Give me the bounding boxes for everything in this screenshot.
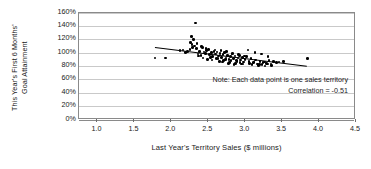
x-tick bbox=[96, 119, 97, 123]
x-tick-label: 4.0 bbox=[313, 124, 323, 133]
x-tick bbox=[170, 119, 171, 123]
data-point bbox=[227, 62, 230, 65]
y-tick-label: 100% bbox=[58, 48, 76, 56]
data-point bbox=[262, 61, 265, 64]
x-tick bbox=[355, 119, 356, 123]
x-tick-label: 1.5 bbox=[128, 124, 138, 133]
data-point bbox=[221, 61, 224, 64]
y-tick-label: 0% bbox=[66, 115, 76, 123]
x-axis-tick-labels: 1.01.52.02.53.03.54.04.5 bbox=[78, 124, 355, 136]
data-point bbox=[200, 45, 203, 48]
data-point bbox=[245, 55, 248, 58]
data-point bbox=[196, 42, 199, 45]
data-point bbox=[211, 55, 214, 58]
x-tick-label: 2.0 bbox=[165, 124, 175, 133]
data-point bbox=[225, 50, 228, 53]
data-point bbox=[282, 60, 285, 63]
gridline bbox=[79, 26, 354, 27]
data-point bbox=[237, 53, 240, 56]
data-point bbox=[247, 49, 250, 52]
data-point bbox=[220, 56, 223, 59]
data-point bbox=[191, 46, 194, 49]
data-point bbox=[211, 59, 214, 62]
y-tick-label: 40% bbox=[62, 88, 76, 96]
x-tick-label: 4.5 bbox=[350, 124, 360, 133]
data-point bbox=[253, 61, 256, 64]
data-point bbox=[260, 53, 263, 56]
data-point bbox=[248, 62, 251, 65]
data-point bbox=[242, 63, 245, 66]
data-point bbox=[251, 63, 254, 66]
x-tick-label: 1.0 bbox=[91, 124, 101, 133]
y-tick-label: 160% bbox=[58, 8, 76, 16]
x-axis-title: Last Year's Territory Sales ($ millions) bbox=[78, 143, 355, 152]
data-point bbox=[204, 52, 207, 55]
data-point bbox=[224, 58, 227, 61]
data-point bbox=[220, 49, 223, 52]
data-point bbox=[231, 52, 234, 55]
x-tick bbox=[133, 119, 134, 123]
data-point bbox=[258, 63, 261, 66]
data-point bbox=[206, 58, 209, 61]
correlation-label: Correlation = -0.51 bbox=[288, 86, 348, 95]
y-tick-label: 140% bbox=[58, 21, 76, 29]
data-point bbox=[268, 59, 271, 62]
x-tick-label: 3.0 bbox=[239, 124, 249, 133]
y-tick-label: 20% bbox=[62, 101, 76, 109]
data-point bbox=[202, 57, 205, 60]
y-axis-title-line-2: Goal Attainment bbox=[20, 4, 30, 132]
data-point bbox=[194, 22, 197, 25]
scatter-chart: This Year's First 6 Months' Goal Attainm… bbox=[0, 0, 371, 169]
x-tick bbox=[318, 119, 319, 123]
data-point bbox=[192, 38, 195, 41]
x-tick bbox=[281, 119, 282, 123]
plot-area: Note: Each data point is one sales terri… bbox=[78, 12, 355, 119]
data-point bbox=[236, 60, 239, 63]
data-point bbox=[266, 63, 269, 66]
data-point bbox=[198, 50, 201, 53]
y-tick-label: 80% bbox=[62, 61, 76, 69]
chart-note: Note: Each data point is one sales terri… bbox=[213, 75, 348, 84]
y-axis-title-line-1: This Year's First 6 Months' bbox=[10, 4, 20, 132]
data-point bbox=[270, 64, 273, 67]
y-tick-label: 120% bbox=[58, 34, 76, 42]
data-point bbox=[254, 51, 257, 54]
gridline bbox=[79, 66, 354, 67]
x-tick-label: 3.5 bbox=[276, 124, 286, 133]
data-point bbox=[243, 55, 246, 58]
data-point bbox=[164, 57, 167, 60]
x-tick bbox=[207, 119, 208, 123]
x-tick bbox=[244, 119, 245, 123]
data-point bbox=[207, 48, 210, 51]
data-point bbox=[154, 57, 157, 60]
gridline bbox=[79, 39, 354, 40]
data-point bbox=[189, 41, 192, 44]
gridline bbox=[79, 13, 354, 14]
data-point bbox=[306, 57, 309, 60]
y-axis-title: This Year's First 6 Months' Goal Attainm… bbox=[10, 4, 29, 132]
y-tick-label: 60% bbox=[62, 74, 76, 82]
x-tick-label: 2.5 bbox=[202, 124, 212, 133]
x-axis-ticks bbox=[78, 119, 355, 124]
gridline bbox=[79, 106, 354, 107]
data-point bbox=[197, 55, 200, 58]
data-point bbox=[267, 55, 270, 58]
y-axis-tick-labels: 0%20%40%60%80%100%120%140%160% bbox=[38, 8, 76, 124]
data-point bbox=[259, 60, 262, 63]
